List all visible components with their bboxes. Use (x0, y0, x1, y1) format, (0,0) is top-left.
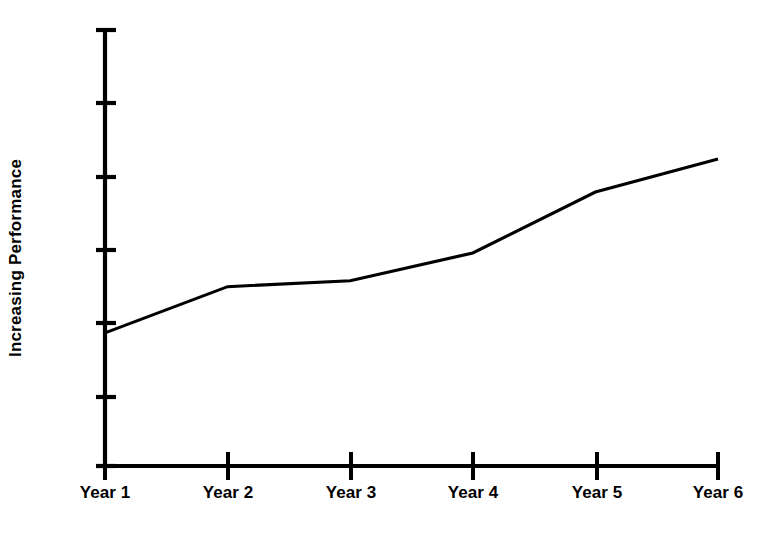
line-chart-plot (0, 0, 769, 537)
x-axis-label-year-3: Year 3 (326, 483, 377, 503)
y-axis-label: Increasing Performance (6, 159, 26, 357)
x-axis-label-year-5: Year 5 (572, 483, 623, 503)
x-axis-label-year-1: Year 1 (80, 483, 131, 503)
x-axis-label-year-4: Year 4 (448, 483, 499, 503)
x-axis-label-year-6: Year 6 (693, 483, 744, 503)
chart-container: Increasing Performance Year 1 Year 2 Yea… (0, 0, 769, 537)
x-axis-label-year-2: Year 2 (203, 483, 254, 503)
chart-background (0, 0, 769, 537)
